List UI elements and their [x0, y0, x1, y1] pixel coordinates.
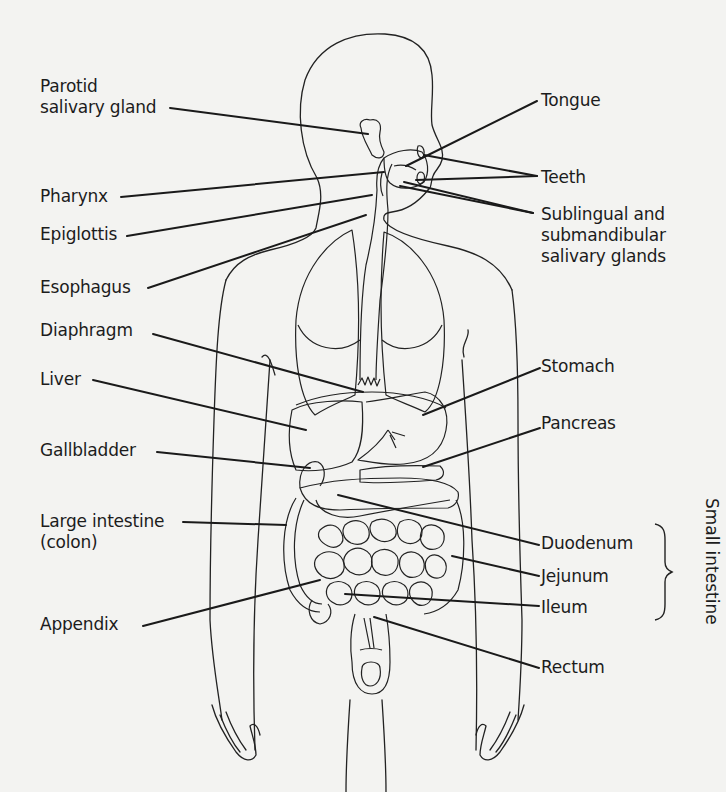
label-esophagus: Esophagus	[40, 277, 131, 298]
label-teeth: Teeth	[541, 167, 586, 188]
label-duodenum: Duodenum	[541, 533, 633, 554]
label-tongue: Tongue	[541, 90, 601, 111]
label-jejunum: Jejunum	[541, 566, 609, 587]
digestive-system-diagram: Parotid salivary gland Pharynx Epiglotti…	[0, 0, 726, 792]
label-pancreas: Pancreas	[541, 413, 616, 434]
body-outline	[210, 34, 524, 792]
label-parotid-salivary-gland: Parotid salivary gland	[40, 76, 156, 118]
body-illustration	[0, 0, 726, 792]
label-rectum: Rectum	[541, 657, 605, 678]
label-sublingual-submandibular: Sublingual and submandibular salivary gl…	[541, 204, 666, 267]
label-ileum: Ileum	[541, 597, 588, 618]
small-intestine-bracket	[655, 524, 672, 620]
label-epiglottis: Epiglottis	[40, 224, 117, 245]
label-large-intestine: Large intestine (colon)	[40, 511, 164, 553]
label-gallbladder: Gallbladder	[40, 440, 136, 461]
label-appendix: Appendix	[40, 614, 118, 635]
label-diaphragm: Diaphragm	[40, 320, 133, 341]
label-stomach: Stomach	[541, 356, 615, 377]
leader-lines	[93, 101, 540, 668]
label-liver: Liver	[40, 369, 81, 390]
label-pharynx: Pharynx	[40, 186, 108, 207]
label-small-intestine: Small intestine	[702, 498, 722, 625]
